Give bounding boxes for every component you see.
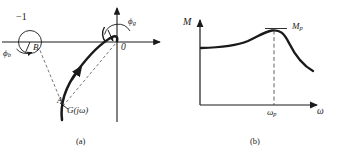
nyquist-svg xyxy=(0,0,172,157)
peak-freq-subscript: p xyxy=(273,110,276,117)
origin-label: 0 xyxy=(121,43,126,53)
magnitude-curve xyxy=(201,30,313,71)
circle-radius-line xyxy=(26,42,31,53)
phi-g-subscript: g xyxy=(133,19,136,26)
transfer-function-label: G(jω) xyxy=(67,106,88,115)
resonant-frequency-label: ωp xyxy=(267,108,277,118)
panel-b-caption: (b) xyxy=(250,136,260,146)
phase-margin-g-arc-thick xyxy=(103,27,106,42)
point-a-label: A xyxy=(57,96,63,105)
dashed-vector-a-to-origin xyxy=(63,43,116,106)
frequency-axis-label: ω xyxy=(317,107,324,117)
phase-margin-b-label: ϕb xyxy=(3,49,11,59)
critical-point-label: −1 xyxy=(16,12,27,22)
phase-margin-g-label: ϕg xyxy=(128,17,136,27)
magnitude-axis-label: M xyxy=(183,17,191,27)
point-b-label: B xyxy=(33,43,39,52)
phase-margin-b-arc xyxy=(17,49,33,53)
magnitude-svg xyxy=(172,0,345,157)
panel-a-caption: (a) xyxy=(76,136,85,146)
phi-b-subscript: b xyxy=(8,51,11,58)
peak-value-subscript: p xyxy=(300,24,303,31)
resonant-peak-label: Mp xyxy=(292,22,303,32)
panel-magnitude-response: M ω Mp ωp (b) xyxy=(172,0,345,157)
panel-nyquist-plot: −1 0 A B ϕb ϕg G(jω) (a) xyxy=(0,0,172,157)
figure-pair: −1 0 A B ϕb ϕg G(jω) (a) xyxy=(0,0,345,157)
peak-value-glyph: M xyxy=(292,21,300,31)
